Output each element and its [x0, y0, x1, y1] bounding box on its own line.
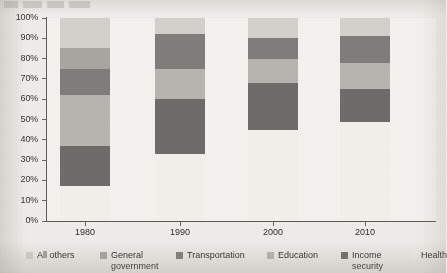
legend-label: Transportation	[187, 250, 245, 261]
bar-segment-1990-transportation	[155, 34, 205, 69]
bar-segment-2000-all-others	[248, 18, 298, 38]
bar-segment-2000-health	[248, 130, 298, 221]
legend-item-income-security[interactable]: Income security	[341, 250, 383, 272]
legend-swatch-icon	[26, 252, 33, 259]
y-axis-tick	[42, 99, 46, 100]
cropped-title-fragment	[4, 1, 90, 8]
legend-swatch-icon	[100, 252, 107, 259]
legend-label: Income security	[352, 250, 383, 272]
bar-1980	[60, 18, 110, 221]
y-axis-tick-label: 100%	[16, 12, 38, 22]
y-axis-line	[46, 17, 47, 222]
y-axis-tick	[42, 200, 46, 201]
x-axis-tick	[180, 222, 181, 226]
y-axis-tick-label: 50%	[21, 114, 38, 124]
y-axis-tick-label: 70%	[21, 73, 38, 83]
y-axis-tick-label: 20%	[21, 174, 38, 184]
bar-segment-2010-income-security	[340, 89, 390, 121]
x-axis-tick	[273, 222, 274, 226]
bar-1990	[155, 18, 205, 221]
legend-item-health[interactable]: Health	[410, 250, 447, 261]
bar-segment-1990-all-others	[155, 18, 205, 34]
chart-legend: All othersGeneral governmentTransportati…	[26, 250, 440, 273]
bar-segment-2010-all-others	[340, 18, 390, 36]
bar-segment-2010-education	[340, 63, 390, 89]
y-axis-tick	[42, 119, 46, 120]
legend-item-education[interactable]: Education	[267, 250, 318, 261]
x-axis-label-2000: 2000	[243, 227, 303, 237]
bar-segment-1990-education	[155, 69, 205, 99]
legend-label: Education	[278, 250, 318, 261]
bar-segment-2000-education	[248, 59, 298, 83]
bar-segment-2000-transportation	[248, 38, 298, 58]
y-axis-tick	[42, 38, 46, 39]
bar-segment-2010-health	[340, 122, 390, 221]
bar-segment-1990-income-security	[155, 99, 205, 154]
bar-segment-1980-all-others	[60, 18, 110, 48]
x-axis-label-1990: 1990	[150, 227, 210, 237]
legend-label: All others	[37, 250, 75, 261]
legend-label: General government	[111, 250, 159, 272]
legend-swatch-icon	[176, 252, 183, 259]
y-axis-tick	[42, 160, 46, 161]
y-axis-tick-label: 30%	[21, 154, 38, 164]
y-axis-tick	[42, 18, 46, 19]
legend-item-general-government[interactable]: General government	[100, 250, 159, 272]
y-axis-tick-label: 40%	[21, 134, 38, 144]
y-axis-tick-label: 80%	[21, 53, 38, 63]
legend-swatch-icon	[410, 252, 417, 259]
x-axis-line	[46, 221, 436, 222]
bar-2000	[248, 18, 298, 221]
bar-segment-1980-education	[60, 95, 110, 146]
y-axis-tick	[42, 180, 46, 181]
y-axis-tick-label: 0%	[25, 215, 38, 225]
y-axis-tick	[42, 58, 46, 59]
bar-segment-1990-health	[155, 154, 205, 221]
legend-label: Health	[421, 250, 447, 261]
bar-segment-2000-income-security	[248, 83, 298, 130]
y-axis-tick-label: 10%	[21, 195, 38, 205]
bar-segment-1980-health	[60, 186, 110, 221]
x-axis-tick	[85, 222, 86, 226]
y-axis-tick-label: 90%	[21, 32, 38, 42]
x-axis-label-1980: 1980	[55, 227, 115, 237]
legend-item-transportation[interactable]: Transportation	[176, 250, 245, 261]
legend-item-all-others[interactable]: All others	[26, 250, 75, 261]
y-axis-tick	[42, 139, 46, 140]
x-axis-tick	[365, 222, 366, 226]
bar-segment-1980-income-security	[60, 146, 110, 187]
bar-segment-1980-transportation	[60, 69, 110, 95]
legend-swatch-icon	[341, 252, 348, 259]
bar-2010	[340, 18, 390, 221]
y-axis-tick	[42, 221, 46, 222]
bar-segment-2010-transportation	[340, 36, 390, 62]
bar-segment-1980-general-government	[60, 48, 110, 68]
y-axis-tick	[42, 78, 46, 79]
x-axis-label-2010: 2010	[335, 227, 395, 237]
legend-swatch-icon	[267, 252, 274, 259]
y-axis-tick-label: 60%	[21, 93, 38, 103]
